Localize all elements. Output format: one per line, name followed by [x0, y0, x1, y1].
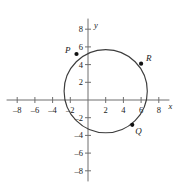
- x-axis-tick-label: –8: [12, 105, 22, 115]
- x-axis-tick-label: 4: [121, 105, 126, 115]
- y-axis-tick-label: 2: [79, 77, 83, 87]
- coordinate-plane-svg: –8–6–4–22468–8–6–4–22468xyPRQ: [0, 0, 178, 190]
- y-axis-tick-label: 6: [79, 42, 83, 52]
- circle-curve: [64, 50, 147, 133]
- point-label-p: P: [64, 45, 71, 55]
- x-axis-tick-label: 2: [104, 105, 108, 115]
- x-axis-tick-label: –4: [47, 105, 57, 115]
- x-axis-tick-label: –6: [30, 105, 40, 115]
- y-axis-tick-label: 8: [79, 24, 83, 34]
- graph-figure: –8–6–4–22468–8–6–4–22468xyPRQ: [0, 0, 178, 190]
- point-label-r: R: [145, 53, 152, 63]
- y-axis-tick-label: –8: [74, 166, 84, 176]
- data-point-p: [74, 52, 78, 56]
- point-label-q: Q: [135, 126, 142, 136]
- x-axis-label: x: [168, 101, 173, 111]
- y-axis-tick-label: 4: [79, 60, 84, 70]
- y-axis-tick-label: –4: [74, 130, 84, 140]
- y-axis-label: y: [93, 20, 98, 30]
- data-point-q: [130, 123, 134, 127]
- x-axis-tick-label: 8: [157, 105, 161, 115]
- y-axis-tick-label: –6: [74, 148, 84, 158]
- y-axis-tick-label: –2: [74, 113, 84, 123]
- data-point-r: [139, 62, 143, 66]
